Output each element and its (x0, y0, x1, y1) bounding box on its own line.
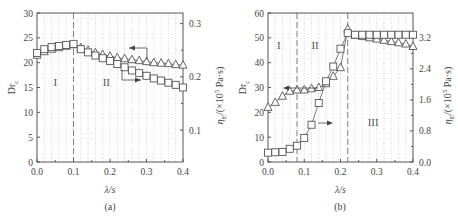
y2-axis-label: ηE/(×105 Pa·s) (213, 67, 228, 125)
y2-tick-label: 2.4 (419, 64, 431, 74)
y2-axis-label: ηE/(×105 Pa·s) (441, 67, 456, 125)
y-tick-label: 60 (255, 9, 265, 19)
x-tick-label: 0.1 (298, 167, 310, 177)
square-marker (286, 145, 293, 152)
y-tick-label: 30 (24, 9, 34, 19)
triangle-marker (164, 59, 172, 67)
square-marker (279, 148, 286, 155)
x-tick-label: 0.0 (262, 167, 274, 177)
triangle-marker (264, 103, 272, 111)
square-marker (294, 142, 301, 149)
region-label: III (368, 116, 379, 128)
y-tick-label: 25 (24, 33, 34, 43)
square-marker (272, 149, 279, 156)
y-tick-label: 10 (24, 108, 34, 118)
y-tick-label: 15 (24, 83, 34, 93)
square-marker (41, 46, 48, 53)
square-marker (359, 31, 366, 38)
square-marker (34, 49, 41, 56)
square-marker (99, 55, 106, 62)
y2-tick-label: 0.8 (419, 126, 431, 136)
triangle-marker (179, 61, 187, 69)
square-marker (114, 61, 121, 68)
triangle-marker (279, 92, 287, 100)
square-marker (388, 31, 395, 38)
square-marker (301, 134, 308, 141)
x-tick-label: 0.3 (141, 167, 153, 177)
region-label: II (311, 39, 319, 51)
square-marker (92, 52, 99, 59)
square-marker (128, 67, 135, 74)
square-marker (70, 40, 77, 47)
y-tick-label: 20 (24, 58, 34, 68)
square-marker (344, 30, 351, 37)
square-marker (337, 45, 344, 52)
y-axis-label: Drc (6, 81, 20, 95)
figure-panels: 0.00.10.20.30.40510152025300.10.20.3IIIλ… (0, 0, 458, 217)
square-marker (165, 79, 172, 86)
arrow-head-icon (327, 121, 333, 126)
square-marker (315, 100, 322, 107)
x-tick-label: 0.2 (335, 167, 347, 177)
square-marker (150, 75, 157, 82)
y2-tick-label: 3.2 (419, 33, 431, 43)
chart-panel-a: 0.00.10.20.30.40510152025300.10.20.3IIIλ… (6, 9, 228, 214)
y-tick-label: 40 (255, 58, 265, 68)
square-marker (55, 42, 62, 49)
x-axis-label: λ/s (103, 184, 115, 195)
square-marker (172, 81, 179, 88)
square-marker (381, 31, 388, 38)
triangle-marker (337, 63, 345, 70)
square-marker (373, 31, 380, 38)
y-tick-label: 20 (255, 108, 265, 118)
y-tick-label: 10 (255, 133, 265, 143)
square-marker (410, 31, 417, 38)
square-marker (107, 57, 114, 64)
triangle-marker (271, 98, 279, 106)
region-label: II (103, 76, 111, 88)
region-label: I (53, 76, 57, 88)
square-marker (180, 84, 187, 91)
triangle-marker (157, 59, 165, 66)
square-marker (158, 77, 165, 84)
square-marker (143, 72, 150, 79)
y-tick-label: 30 (255, 83, 265, 93)
square-marker (77, 46, 84, 53)
arrow-head-icon (283, 86, 289, 91)
square-marker (136, 70, 143, 77)
square-marker (85, 49, 92, 56)
y2-tick-label: 0.0 (419, 158, 431, 168)
square-marker (330, 63, 337, 70)
y2-tick-label: 0.2 (189, 72, 201, 82)
x-tick-label: 0.1 (68, 167, 80, 177)
square-marker (121, 64, 128, 71)
chart-panel-b: 0.00.10.20.30.401020304050600.00.81.62.4… (237, 9, 456, 214)
square-marker (352, 31, 359, 38)
y2-tick-label: 1.6 (419, 95, 431, 105)
y-tick-label: 0 (28, 158, 33, 168)
y-tick-label: 5 (28, 133, 33, 143)
square-marker (395, 31, 402, 38)
square-marker (366, 31, 373, 38)
square-marker (265, 149, 272, 156)
panel-caption: (a) (104, 201, 115, 213)
y-tick-label: 0 (259, 158, 264, 168)
x-axis-label: λ/s (334, 184, 346, 195)
x-tick-label: 0.3 (371, 167, 383, 177)
square-marker (308, 121, 315, 128)
panel-caption: (b) (334, 201, 346, 213)
x-tick-label: 0.4 (407, 167, 419, 177)
y2-tick-label: 0.1 (189, 126, 201, 136)
x-tick-label: 0.4 (177, 167, 189, 177)
x-tick-label: 0.0 (31, 167, 43, 177)
region-label: I (277, 39, 281, 51)
square-marker (323, 78, 330, 85)
square-marker (48, 44, 55, 51)
triangle-marker (293, 85, 301, 93)
square-marker (63, 41, 70, 48)
arrow-head-icon (135, 78, 141, 83)
y2-tick-label: 0.3 (189, 19, 201, 29)
y-tick-label: 50 (255, 33, 265, 43)
x-tick-label: 0.2 (104, 167, 116, 177)
y-axis-label: Drc (237, 81, 251, 95)
